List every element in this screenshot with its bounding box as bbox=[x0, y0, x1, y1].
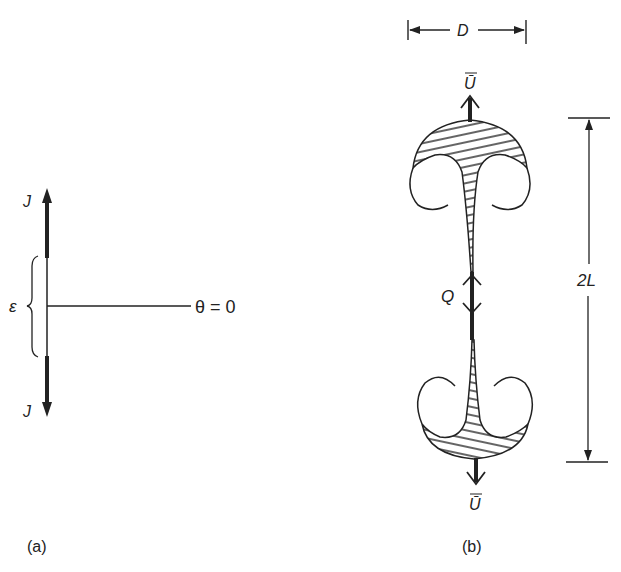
bottom-left-vortex-curl bbox=[418, 377, 455, 424]
top-jet-arrow-icon bbox=[42, 188, 52, 258]
bottom-right-vortex-curl bbox=[494, 377, 532, 424]
source-double-arrow-icon bbox=[463, 272, 481, 340]
top-vortex-cap bbox=[413, 120, 527, 272]
jet-bottom-label: J bbox=[22, 403, 32, 420]
gap-label: ε bbox=[9, 297, 17, 316]
panel-a-caption: (a) bbox=[27, 538, 47, 555]
bottom-velocity-arrow-icon bbox=[467, 458, 485, 484]
width-label: D bbox=[457, 22, 469, 39]
panel-b-caption: (b) bbox=[462, 538, 482, 555]
top-right-vortex-curl bbox=[492, 168, 530, 210]
theta-label: θ = 0 bbox=[195, 297, 236, 317]
jet-top-label: J bbox=[22, 193, 32, 210]
top-velocity-label: Ū bbox=[464, 75, 476, 92]
length-dimension bbox=[566, 118, 610, 462]
bottom-velocity-label: Ū bbox=[469, 496, 481, 513]
panel-b: D Ū Q Ū bbox=[408, 20, 610, 555]
length-label: 2L bbox=[576, 271, 596, 290]
top-velocity-arrow-icon bbox=[461, 96, 479, 122]
panel-a: J J ε θ = 0 (a) bbox=[9, 188, 236, 555]
gap-brace-icon bbox=[27, 256, 38, 357]
top-left-vortex-curl bbox=[410, 168, 448, 210]
diagram-canvas: J J ε θ = 0 (a) D Ū bbox=[0, 0, 621, 572]
bottom-vortex-cap bbox=[422, 340, 528, 459]
source-label: Q bbox=[441, 287, 454, 306]
bottom-jet-arrow-icon bbox=[42, 356, 52, 417]
